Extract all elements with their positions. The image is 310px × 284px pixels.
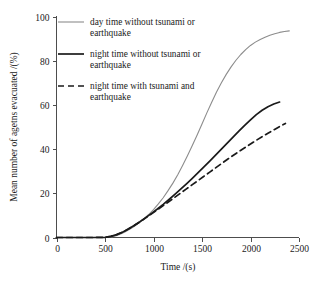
y-tick-label: 60 <box>40 101 50 111</box>
x-axis-title: Time /(s) <box>161 262 196 273</box>
y-axis-title: Mean number of agetns evacuated /(%) <box>9 52 20 202</box>
legend-label-0-line1: day time without tsunami or <box>90 17 196 27</box>
y-axis-tick-labels: 020406080100 <box>35 13 50 244</box>
legend-label-2-line1: night time with tsunami and <box>90 81 195 91</box>
legend-label-1-line1: night time without tsunami or <box>90 49 201 59</box>
series-line-1 <box>57 102 280 237</box>
legend-label-0-line2: earthquake <box>90 28 131 38</box>
x-tick-label: 500 <box>98 244 113 254</box>
legend-entries: day time without tsunami orearthquakenig… <box>58 17 201 102</box>
x-tick-label: 0 <box>55 244 60 254</box>
y-axis-ticks <box>53 18 57 239</box>
legend-label-1-line2: earthquake <box>90 60 131 70</box>
y-tick-label: 0 <box>45 234 50 244</box>
x-axis-tick-labels: 05001000150020002500 <box>55 244 309 254</box>
chart-canvas: 020406080100 05001000150020002500 day ti… <box>0 0 310 284</box>
x-tick-label: 1500 <box>193 244 212 254</box>
y-tick-label: 80 <box>40 57 50 67</box>
x-tick-label: 2500 <box>290 244 309 254</box>
series-line-2 <box>57 123 286 237</box>
legend: day time without tsunami orearthquakenig… <box>58 17 201 102</box>
evacuation-line-chart: 020406080100 05001000150020002500 day ti… <box>0 0 310 284</box>
x-axis: 05001000150020002500 <box>55 238 309 254</box>
legend-label-2-line2: earthquake <box>90 92 131 102</box>
x-tick-label: 1000 <box>145 244 164 254</box>
x-tick-label: 2000 <box>242 244 261 254</box>
y-tick-label: 20 <box>40 189 50 199</box>
y-axis: 020406080100 <box>35 13 56 244</box>
y-tick-label: 40 <box>40 145 50 155</box>
y-tick-label: 100 <box>35 13 50 23</box>
